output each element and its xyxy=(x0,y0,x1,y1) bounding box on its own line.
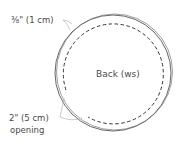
back-ws-label: Back (ws) xyxy=(96,69,140,79)
opening-size-label: 2" (5 cm) xyxy=(9,113,49,123)
seam-allowance-label: ⅜" (1 cm) xyxy=(11,15,54,25)
circle-pattern-diagram: ⅜" (1 cm) Back (ws) 2" (5 cm) opening xyxy=(0,0,190,149)
opening-label: opening xyxy=(10,125,44,135)
leader-seam-allowance xyxy=(63,20,72,30)
leader-opening xyxy=(60,98,82,120)
